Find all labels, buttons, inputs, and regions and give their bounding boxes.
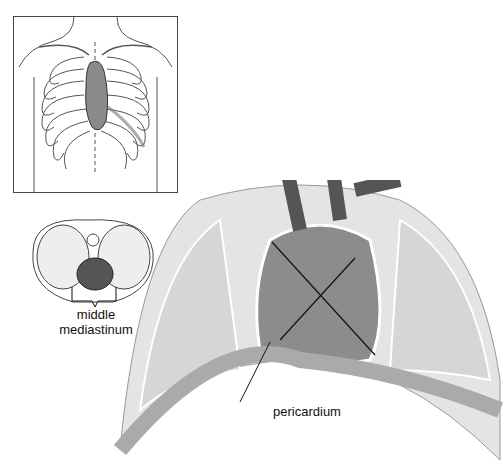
- pericardium-label: pericardium: [262, 404, 352, 419]
- inset-chest-panel: [13, 16, 178, 193]
- ribcage-illustration: [14, 17, 177, 192]
